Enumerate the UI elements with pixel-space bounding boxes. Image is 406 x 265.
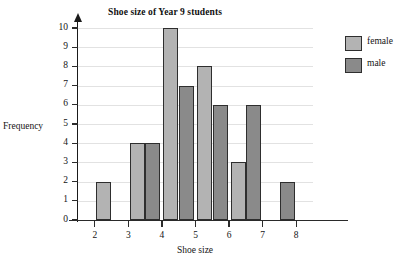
x-tick-label: 5: [184, 230, 208, 240]
y-tick-mark: [72, 47, 78, 48]
x-tick-label: 7: [251, 230, 275, 240]
x-tick-label: 3: [116, 230, 140, 240]
x-axis-title: Shoe size: [150, 245, 240, 255]
x-tick-mark: [161, 221, 162, 227]
x-tick-mark: [195, 221, 196, 227]
bar-male-8: [280, 182, 295, 220]
bar-female-2: [96, 182, 111, 220]
y-tick-label: 4: [46, 137, 68, 147]
y-tick-label: 0: [46, 214, 68, 224]
gridline: [78, 105, 313, 106]
gridline: [78, 162, 313, 163]
gridline: [78, 201, 313, 202]
legend-label-female: female: [367, 36, 393, 46]
x-tick-mark: [296, 221, 297, 227]
y-tick-label: 9: [46, 41, 68, 51]
y-tick-mark: [72, 219, 78, 220]
x-tick-label: 2: [83, 230, 107, 240]
y-axis-line: [77, 20, 78, 222]
bar-male-7: [246, 105, 261, 220]
gridline: [78, 47, 313, 48]
legend-swatch-female: [345, 36, 362, 51]
y-tick-label: 5: [46, 118, 68, 128]
x-tick-label: 8: [284, 230, 308, 240]
x-tick-label: 4: [150, 230, 174, 240]
gridline: [78, 86, 313, 87]
y-tick-mark: [72, 104, 78, 105]
plot-area: [78, 28, 313, 220]
chart-title: Shoe size of Year 9 students: [0, 7, 330, 17]
bar-male-6: [213, 105, 228, 220]
y-tick-label: 6: [46, 98, 68, 108]
y-tick-label: 8: [46, 60, 68, 70]
y-tick-label: 3: [46, 156, 68, 166]
y-tick-label: 7: [46, 79, 68, 89]
gridline: [78, 143, 313, 144]
bar-female-4: [163, 28, 178, 220]
gridline: [78, 28, 313, 29]
bar-male-5: [179, 86, 194, 220]
x-tick-mark: [228, 221, 229, 227]
gridline: [78, 124, 313, 125]
x-tick-label: 6: [217, 230, 241, 240]
y-tick-label: 2: [46, 175, 68, 185]
x-tick-mark: [262, 221, 263, 227]
y-tick-label: 1: [46, 194, 68, 204]
y-axis-arrow-icon: [74, 13, 82, 22]
y-tick-mark: [72, 85, 78, 86]
y-tick-mark: [72, 162, 78, 163]
x-axis-line: [69, 220, 348, 221]
bar-female-5: [197, 66, 212, 220]
y-tick-mark: [72, 27, 78, 28]
gridline: [78, 66, 313, 67]
gridline: [78, 182, 313, 183]
legend-label-male: male: [367, 58, 385, 68]
legend-swatch-male: [345, 58, 362, 73]
bar-chart: Shoe size of Year 9 students Frequency S…: [0, 0, 406, 265]
bar-female-6: [231, 162, 246, 220]
y-tick-mark: [72, 123, 78, 124]
x-tick-mark: [128, 221, 129, 227]
x-tick-mark: [94, 221, 95, 227]
y-tick-mark: [72, 181, 78, 182]
y-tick-label: 10: [46, 22, 68, 32]
bar-male-4: [145, 143, 160, 220]
y-tick-mark: [72, 200, 78, 201]
y-tick-mark: [72, 143, 78, 144]
bar-female-3: [130, 143, 145, 220]
y-tick-mark: [72, 66, 78, 67]
